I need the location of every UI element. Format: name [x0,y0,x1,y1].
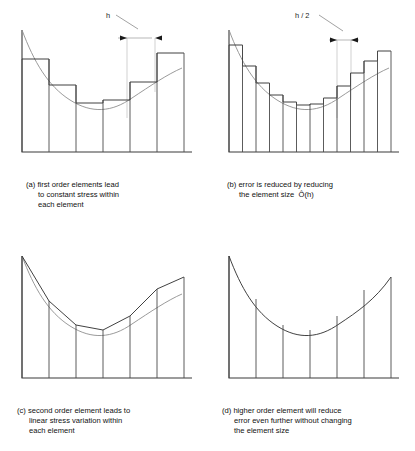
dimension-leader-line [319,15,343,31]
panel-d-plot [207,226,414,406]
arrowhead-right-icon [351,37,358,42]
panel-b: h / 2 (b) error is [207,0,414,225]
panel-b-caption-line-2: the element size Ô(h) [207,190,414,200]
panel-d-caption: (d) higher order element will reduce err… [207,406,414,437]
figure-container: h (a) first order elements lead to [0,0,415,451]
panel-b-exact-curve [229,30,389,110]
panel-c-caption-line-3: each element [0,426,207,436]
panel-a-caption-line-3: each element [0,200,207,210]
panel-c-caption-line-1: (c) second order element leads to [0,406,207,416]
panel-c-axes [22,256,192,378]
panel-d: (d) higher order element will reduce err… [207,226,414,451]
arrowhead-left-icon [120,35,127,40]
panel-a-plot: h [0,0,207,180]
arrowhead-left-icon [330,37,337,42]
panel-b-caption: (b) error is reduced by reducing the ele… [207,180,414,200]
panel-d-axes [229,256,399,378]
panel-c-caption: (c) second order element leads to linear… [0,406,207,437]
panel-d-caption-line-1: (d) higher order element will reduce [207,406,414,416]
panel-b-step-profile [229,45,391,105]
panel-a-exact-curve [22,30,182,110]
dimension-leader-line [116,15,138,29]
panel-a-axes [22,30,192,152]
panel-b-axes [229,30,399,152]
panel-a-caption-line-2: to constant stress within [0,190,207,200]
panel-b-caption-line-1: (b) error is reduced by reducing [207,180,414,190]
panel-b-plot: h / 2 [207,0,414,180]
dimension-label-h: h [106,11,110,20]
panel-c: (c) second order element leads to linear… [0,226,207,451]
panel-d-higher-order-curve [229,256,391,336]
dimension-label-h-over-2: h / 2 [295,11,309,20]
panel-c-caption-line-2: linear stress variation within [0,416,207,426]
panel-d-caption-line-2: error even further without changing [207,416,414,426]
panel-c-plot [0,226,207,406]
panel-d-caption-line-3: the element size [207,426,414,436]
panel-a-caption-line-1: (a) first order elements lead [0,180,207,190]
panel-a: h (a) first order elements lead to [0,0,207,225]
arrowhead-right-icon [155,35,162,40]
panel-c-linear-profile [22,256,184,330]
panel-a-caption: (a) first order elements lead to constan… [0,180,207,211]
